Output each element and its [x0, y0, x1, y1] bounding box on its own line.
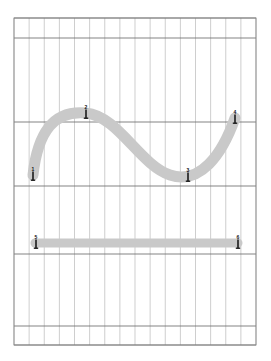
node-handle-icon[interactable]	[35, 240, 37, 249]
node-marker-label: 3	[187, 167, 190, 173]
node-marker-label: 1	[32, 166, 35, 172]
node-base-icon	[34, 248, 38, 249]
node-handle-icon[interactable]	[234, 115, 236, 124]
node-markers-group[interactable]: 123456	[31, 104, 240, 249]
node-handle-icon[interactable]	[32, 172, 34, 181]
stroke-shapes-group[interactable]	[33, 113, 238, 243]
node-base-icon	[233, 123, 237, 124]
node-marker-label: 6	[237, 234, 240, 240]
node-marker-label: 2	[85, 104, 88, 110]
node-base-icon	[84, 118, 88, 119]
node-base-icon	[31, 180, 35, 181]
node-base-icon	[236, 248, 240, 249]
node-handle-icon[interactable]	[85, 110, 87, 119]
node-marker-label: 4	[234, 109, 237, 115]
node-base-icon	[186, 181, 190, 182]
node-marker-label: 5	[35, 234, 38, 240]
node-handle-icon[interactable]	[187, 173, 189, 182]
grid-minor-lines	[14, 18, 256, 345]
drawing-canvas[interactable]: 123456	[0, 0, 271, 361]
node-handle-icon[interactable]	[237, 240, 239, 249]
vector-canvas-surface[interactable]: 123456	[0, 0, 271, 361]
